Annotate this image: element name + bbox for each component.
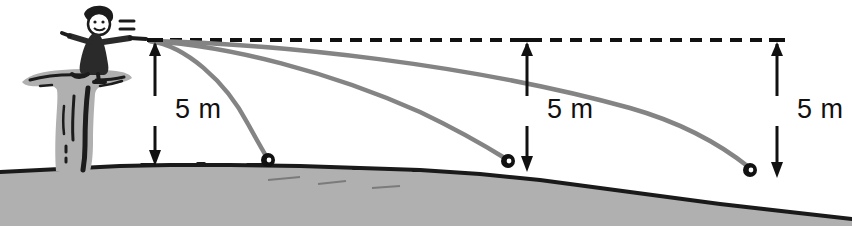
- ball-2: [501, 154, 515, 168]
- measurement-5m-3: 5 m: [769, 40, 844, 178]
- measurement-label: 5 m: [175, 94, 222, 124]
- measurement-label: 5 m: [797, 94, 844, 124]
- projectile-motion-figure: 5 m5 m5 m: [0, 0, 852, 226]
- motion-lines-icon: [120, 21, 134, 29]
- trajectory-fast: [150, 41, 750, 168]
- measurement-5m-2: 5 m: [519, 40, 594, 172]
- cliff-pillar: [22, 69, 132, 171]
- ground-terrain: [0, 162, 852, 226]
- trajectory-group: [150, 41, 750, 168]
- measurement-5m-1: 5 m: [147, 40, 222, 166]
- measurement-label: 5 m: [547, 94, 594, 124]
- ball-3: [743, 163, 757, 177]
- ball-1: [261, 153, 275, 167]
